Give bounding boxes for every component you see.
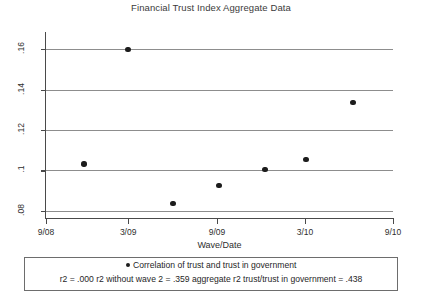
x-axis-tick xyxy=(305,219,306,224)
legend-stats-line: r2 = .000 r2 without wave 2 = .359 aggre… xyxy=(25,274,397,284)
gridline-y xyxy=(46,130,393,131)
x-axis-tick-label: 9/10 xyxy=(371,227,415,237)
gridline-y xyxy=(46,49,393,50)
x-axis-tick xyxy=(46,219,47,224)
x-axis-line xyxy=(45,218,394,219)
y-axis-tick-label: .14 xyxy=(16,76,26,102)
y-axis-tick xyxy=(41,49,46,50)
y-axis-tick xyxy=(41,211,46,212)
gridline-y xyxy=(46,211,393,212)
legend-entry: Correlation of trust and trust in govern… xyxy=(25,260,397,270)
x-axis-tick-label: 9/09 xyxy=(195,227,239,237)
plot-area xyxy=(46,40,393,218)
y-axis-tick-label: .08 xyxy=(16,197,26,223)
gridline-y xyxy=(46,170,393,171)
y-axis-tick-label: .12 xyxy=(16,116,26,142)
x-axis-tick-label: 3/09 xyxy=(106,227,150,237)
data-point xyxy=(125,47,130,52)
y-axis-tick-label: .1 xyxy=(16,156,26,182)
x-axis-tick-label: 3/10 xyxy=(283,227,327,237)
y-axis-line xyxy=(45,32,46,218)
x-axis-tick xyxy=(217,219,218,224)
y-axis-tick xyxy=(41,170,46,171)
x-axis-tick xyxy=(128,219,129,224)
data-point xyxy=(262,167,267,172)
chart-screenshot: Financial Trust Index Aggregate Data Wav… xyxy=(0,0,422,303)
chart-title: Financial Trust Index Aggregate Data xyxy=(0,2,422,13)
data-point xyxy=(81,161,86,166)
y-axis-tick xyxy=(41,90,46,91)
gridline-y xyxy=(46,90,393,91)
legend-entry-label: Correlation of trust and trust in govern… xyxy=(133,260,296,270)
x-axis-title: Wave/Date xyxy=(46,240,393,250)
data-point xyxy=(303,157,308,162)
data-point xyxy=(350,100,355,105)
legend-marker-icon xyxy=(126,263,130,267)
legend-box: Correlation of trust and trust in govern… xyxy=(24,257,398,291)
x-axis-tick-label: 9/08 xyxy=(24,227,68,237)
x-axis-tick xyxy=(393,219,394,224)
y-axis-tick-label: .16 xyxy=(16,35,26,61)
data-point xyxy=(216,183,221,188)
data-point xyxy=(170,201,175,206)
y-axis-tick xyxy=(41,130,46,131)
